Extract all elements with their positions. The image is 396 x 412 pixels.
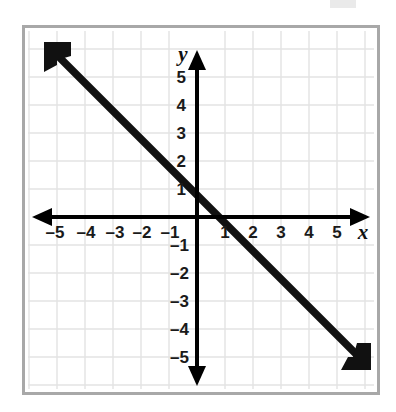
coordinate-plane: –5 –4 –3 –2 –1 1 2 3 4 5 5 4 3 2 [22, 25, 380, 395]
y-axis-arrow-down [188, 366, 206, 386]
y-tick-label: –2 [170, 264, 189, 283]
x-tick-label: –3 [106, 223, 125, 242]
x-tick-label: 3 [276, 223, 285, 242]
y-tick-label: –3 [170, 292, 189, 311]
plotted-line-y-equals-negative-x [44, 42, 371, 370]
x-tick-label: 2 [248, 223, 257, 242]
x-tick-label: –4 [77, 223, 96, 242]
y-tick-label: 5 [177, 68, 186, 87]
graph-figure: –5 –4 –3 –2 –1 1 2 3 4 5 5 4 3 2 [0, 0, 396, 412]
y-tick-label: 2 [177, 152, 186, 171]
x-tick-label: 5 [332, 223, 341, 242]
y-tick-label: 1 [177, 180, 186, 199]
x-tick-label: 1 [220, 223, 229, 242]
y-axis-arrow-up [188, 50, 206, 70]
x-tick-label: –5 [46, 223, 65, 242]
x-axis-label: x [357, 220, 369, 244]
x-tick-label: 4 [304, 223, 314, 242]
grid-lines [28, 31, 374, 389]
x-tick-label: –2 [133, 223, 152, 242]
y-tick-label: 4 [177, 96, 187, 115]
x-axis-tick-labels: –5 –4 –3 –2 –1 1 2 3 4 5 [46, 223, 342, 242]
page-edge-artifact [330, 0, 356, 8]
y-axis-label: y [175, 42, 188, 66]
y-tick-label: –1 [170, 236, 189, 255]
y-tick-label: 3 [177, 124, 186, 143]
graph-svg: –5 –4 –3 –2 –1 1 2 3 4 5 5 4 3 2 [22, 25, 380, 395]
line-segment [54, 52, 361, 359]
y-tick-label: –5 [170, 348, 189, 367]
y-tick-label: –4 [170, 320, 189, 339]
